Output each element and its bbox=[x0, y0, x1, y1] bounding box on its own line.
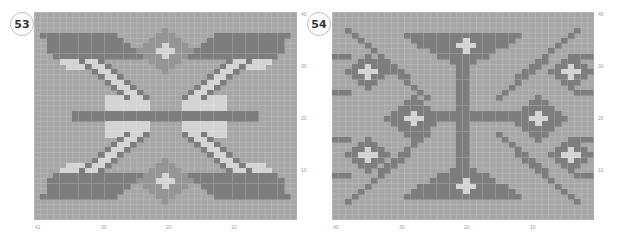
stitch-cell bbox=[345, 137, 352, 143]
stitch-cell bbox=[391, 163, 398, 169]
stitch-cell bbox=[509, 85, 516, 91]
stitch-cell bbox=[358, 189, 365, 195]
chart-53-y-tick: 10 bbox=[301, 167, 307, 173]
stitch-cell bbox=[220, 80, 227, 86]
stitch-cell bbox=[162, 199, 169, 205]
stitch-cell bbox=[574, 80, 581, 86]
chart-54-badge: 54 bbox=[307, 12, 331, 36]
chart-53-y-tick: 40 bbox=[301, 11, 307, 17]
chart-53-grid bbox=[34, 12, 297, 220]
stitch-cell bbox=[587, 173, 594, 179]
stitch-cell bbox=[587, 152, 594, 158]
stitch-cell bbox=[502, 43, 509, 49]
chart-53-badge: 53 bbox=[10, 12, 34, 36]
stitch-cell bbox=[284, 194, 291, 200]
stitch-cell bbox=[345, 199, 352, 205]
stitch-cell bbox=[124, 147, 131, 153]
chart-54-x-tick: 10 bbox=[530, 224, 536, 230]
stitch-cell bbox=[259, 64, 266, 70]
knitting-chart-54 bbox=[332, 12, 594, 220]
stitch-cell bbox=[371, 178, 378, 184]
stitch-cell bbox=[378, 74, 385, 80]
chart-54-y-tick: 30 bbox=[598, 63, 604, 69]
chart-53-y-tick: 30 bbox=[301, 63, 307, 69]
stitch-cell bbox=[214, 85, 221, 91]
stitch-cell bbox=[117, 152, 124, 158]
stitch-cell bbox=[424, 132, 431, 138]
stitch-cell bbox=[535, 64, 542, 70]
stitch-cell bbox=[365, 168, 372, 174]
stitch-cell bbox=[271, 54, 278, 60]
stitch-cell bbox=[162, 69, 169, 75]
stitch-cell bbox=[352, 194, 359, 200]
stitch-cell bbox=[345, 90, 352, 96]
stitch-cell bbox=[365, 85, 372, 91]
stitch-cell bbox=[555, 121, 562, 127]
stitch-cell bbox=[548, 48, 555, 54]
knitting-chart-53 bbox=[34, 12, 297, 220]
stitch-cell bbox=[169, 194, 176, 200]
chart-54-y-tick: 10 bbox=[598, 167, 604, 173]
stitch-cell bbox=[574, 28, 581, 34]
stitch-cell bbox=[581, 74, 588, 80]
chart-54-y-tick: 40 bbox=[598, 11, 604, 17]
stitch-cell bbox=[130, 142, 137, 148]
stitch-cell bbox=[226, 74, 233, 80]
stitch-cell bbox=[111, 194, 118, 200]
chart-53-y-tick: 20 bbox=[301, 115, 307, 121]
stitch-cell bbox=[522, 74, 529, 80]
stitch-cell bbox=[515, 194, 522, 200]
stitch-cell bbox=[529, 69, 536, 75]
chart-53-x-tick: 10 bbox=[231, 224, 237, 230]
stitch-cell bbox=[515, 33, 522, 39]
stitch-cell bbox=[265, 59, 272, 65]
stitch-cell bbox=[117, 189, 124, 195]
chart-54-y-tick: 20 bbox=[598, 115, 604, 121]
stitch-cell bbox=[365, 184, 372, 190]
stitch-cell bbox=[587, 69, 594, 75]
stitch-cell bbox=[252, 116, 259, 122]
chart-54-x-tick: 40 bbox=[333, 224, 339, 230]
stitch-cell bbox=[483, 54, 490, 60]
chart-53-x-tick: 20 bbox=[166, 224, 172, 230]
stitch-cell bbox=[587, 54, 594, 60]
stitch-cell bbox=[284, 33, 291, 39]
stitch-cell bbox=[371, 80, 378, 86]
stitch-cell bbox=[515, 80, 522, 86]
stitch-cell bbox=[509, 38, 516, 44]
stitch-cell bbox=[430, 121, 437, 127]
stitch-cell bbox=[111, 158, 118, 164]
stitch-cell bbox=[470, 59, 477, 65]
stitch-cell bbox=[124, 184, 131, 190]
stitch-cell bbox=[542, 132, 549, 138]
stitch-cell bbox=[105, 163, 112, 169]
stitch-cell bbox=[548, 126, 555, 132]
chart-53-x-tick: 41 bbox=[35, 224, 41, 230]
stitch-cell bbox=[587, 90, 594, 96]
stitch-cell bbox=[404, 152, 411, 158]
stitch-cell bbox=[220, 132, 227, 138]
stitch-cell bbox=[278, 48, 285, 54]
stitch-cell bbox=[587, 137, 594, 143]
stitch-cell bbox=[502, 90, 509, 96]
stitch-cell bbox=[542, 59, 549, 65]
stitch-cell bbox=[411, 142, 418, 148]
chart-54-x-tick: 20 bbox=[464, 224, 470, 230]
chart-54-x-tick: 30 bbox=[399, 224, 405, 230]
stitch-cell bbox=[535, 137, 542, 143]
chart-54-grid bbox=[332, 12, 594, 220]
stitch-cell bbox=[574, 199, 581, 205]
stitch-cell bbox=[417, 137, 424, 143]
stitch-cell bbox=[561, 38, 568, 44]
stitch-cell bbox=[378, 173, 385, 179]
stitch-cell bbox=[233, 69, 240, 75]
stitch-cell bbox=[489, 48, 496, 54]
stitch-cell bbox=[561, 116, 568, 122]
stitch-cell bbox=[137, 137, 144, 143]
stitch-cell bbox=[345, 173, 352, 179]
stitch-cell bbox=[574, 163, 581, 169]
stitch-cell bbox=[568, 33, 575, 39]
stitch-cell bbox=[345, 54, 352, 60]
stitch-cell bbox=[384, 168, 391, 174]
stitch-cell bbox=[424, 95, 431, 101]
